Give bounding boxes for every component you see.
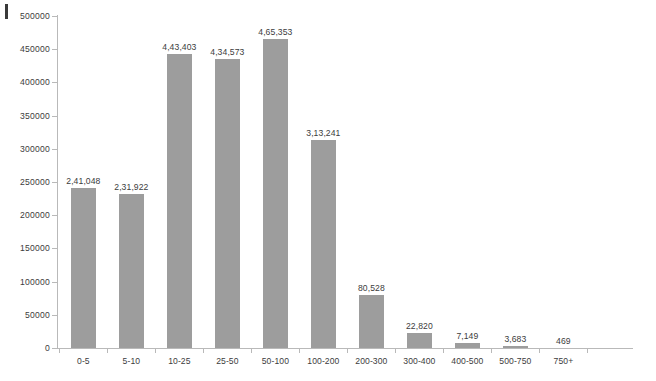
y-axis-tick-label-wrap: 50000 [0,310,50,320]
y-axis-tick-label-wrap: 200000 [0,210,50,220]
bar [311,140,336,348]
y-axis-tick-label: 0 [2,343,50,353]
x-axis-tick [395,349,396,353]
y-axis-tick-label: 450000 [2,44,50,54]
x-axis-tick [587,349,588,353]
x-axis-tick [539,349,540,353]
y-axis-tick-label-wrap: 300000 [0,144,50,154]
y-axis-tick-label: 500000 [2,11,50,21]
y-axis-tick [52,16,57,17]
x-axis-tick [203,349,204,353]
y-axis-tick-label: 300000 [2,144,50,154]
x-axis-tick [443,349,444,353]
y-axis-tick [52,149,57,150]
y-axis-tick [52,82,57,83]
bar [503,346,528,348]
bar [119,194,144,348]
bar [455,343,480,348]
bar [263,39,288,348]
bar-value-label: 80,528 [331,283,411,293]
y-axis-tick [52,49,57,50]
y-axis-tick-label-wrap: 500000 [0,11,50,21]
y-axis-tick-label: 150000 [2,243,50,253]
y-axis-tick-label: 100000 [2,277,50,287]
y-axis-tick-label-wrap: 150000 [0,243,50,253]
bar-value-label: 3,13,241 [283,128,363,138]
bar-value-label: 469 [523,336,603,346]
x-axis-tick [155,349,156,353]
y-axis-tick [52,315,57,316]
bar [71,188,96,348]
x-axis-tick-label: 750+ [523,356,603,366]
y-axis-tick-label-wrap: 400000 [0,77,50,87]
y-axis-tick-label: 350000 [2,111,50,121]
x-axis-tick [491,349,492,353]
plot-area: 0500001000001500002000002500003000003500… [0,0,656,381]
x-axis-tick [299,349,300,353]
x-axis-tick [251,349,252,353]
bar-value-label: 4,65,353 [235,27,315,37]
y-axis-tick [52,215,57,216]
y-axis-tick-label-wrap: 450000 [0,44,50,54]
bar [167,54,192,348]
bar-value-label: 2,31,922 [91,182,171,192]
y-axis-tick-label-wrap: 350000 [0,111,50,121]
y-axis-tick-label-wrap: 100000 [0,277,50,287]
x-axis-line [57,348,633,349]
bar [215,59,240,348]
y-axis-tick-label-wrap: 0 [0,343,50,353]
x-axis-tick [107,349,108,353]
y-axis-tick-label: 400000 [2,77,50,87]
y-axis-tick-label: 50000 [2,310,50,320]
y-axis-tick [52,248,57,249]
y-axis-tick-label: 200000 [2,210,50,220]
y-axis-tick [52,348,57,349]
bar-value-label: 4,34,573 [187,47,267,57]
bar-chart-figure: 0500001000001500002000002500003000003500… [0,0,656,381]
x-axis-tick [59,349,60,353]
x-axis-tick [347,349,348,353]
bar-value-label: 22,820 [379,321,459,331]
y-axis-tick [52,282,57,283]
y-axis-tick [52,116,57,117]
